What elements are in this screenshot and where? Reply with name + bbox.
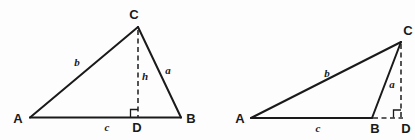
vertex-label-b-obtuse: B (370, 121, 379, 136)
edge-ac-acute (30, 27, 138, 118)
right-angle-marker-obtuse (394, 110, 402, 118)
vertex-label-a-obtuse: A (235, 111, 245, 126)
side-label-b-acute: b (74, 56, 80, 68)
side-label-a-acute: a (165, 64, 171, 76)
vertex-label-c-obtuse: C (403, 23, 413, 38)
right-angle-marker-acute (131, 110, 139, 118)
obtuse-triangle-panel: C A B D b a c (235, 23, 413, 136)
vertex-label-d-obtuse: D (401, 121, 410, 136)
vertex-label-c-acute: C (129, 7, 139, 22)
vertex-label-d-acute: D (132, 120, 141, 135)
triangle-diagram-svg: C A B D b a h c C A B (0, 0, 415, 140)
acute-triangle-panel: C A B D b a h c (13, 7, 195, 135)
side-label-c-acute: c (105, 121, 110, 133)
vertex-label-a-acute: A (13, 111, 23, 126)
edge-ac-obtuse (251, 42, 401, 118)
figure-canvas: C A B D b a h c C A B (0, 0, 415, 140)
side-label-b-obtuse: b (324, 67, 330, 79)
side-label-h-acute: h (142, 70, 148, 82)
vertex-label-b-acute: B (186, 111, 195, 126)
side-label-a-obtuse: a (389, 78, 395, 90)
side-label-c-obtuse: c (316, 122, 321, 134)
